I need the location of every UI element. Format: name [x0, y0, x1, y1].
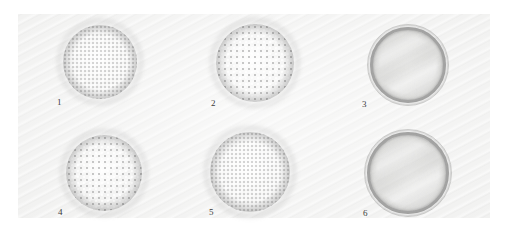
grain-speckle-texture-1: [63, 25, 137, 99]
grain-lumen-sheen-6: [375, 140, 441, 206]
grain-speckle-texture-2: [216, 24, 294, 102]
specimen-label-2: 2: [211, 99, 216, 108]
specimen-5: [210, 132, 290, 212]
specimen-label-6: 6: [363, 209, 368, 218]
grain-speckle-texture-5: [210, 132, 290, 212]
grain-speckle-texture-4: [66, 135, 142, 211]
pollen-grain-5: [210, 132, 290, 212]
specimen-4: [66, 135, 142, 211]
specimen-1: [63, 25, 137, 99]
pollen-grain-1: [63, 25, 137, 99]
specimen-label-3: 3: [362, 100, 367, 109]
specimen-label-5: 5: [209, 208, 214, 217]
pollen-grain-3: [370, 27, 446, 103]
specimen-2: [216, 24, 294, 102]
specimen-label-4: 4: [58, 208, 63, 217]
pollen-grain-4: [66, 135, 142, 211]
micrograph-plate-figure: 123456: [0, 0, 509, 233]
specimen-label-1: 1: [57, 98, 62, 107]
specimen-6: [367, 132, 449, 214]
pollen-grain-6: [367, 132, 449, 214]
pollen-grain-2: [216, 24, 294, 102]
specimen-3: [370, 27, 446, 103]
